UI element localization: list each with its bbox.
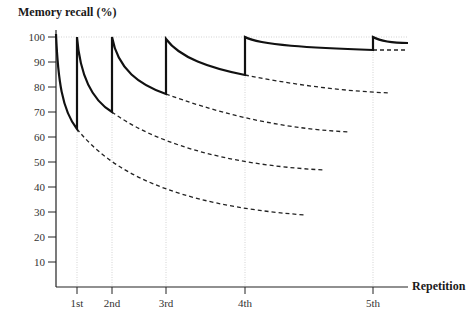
y-tick-labels: 100 90 80 70 60 50 40 30 20 10 <box>29 31 46 268</box>
x-axis-label: Repetition <box>412 279 466 293</box>
y-tick-50: 50 <box>34 156 46 168</box>
forgetting-curve-chart: Memory recall (%) 100 90 80 70 60 50 40 … <box>0 0 474 320</box>
x-tick-4th: 4th <box>238 297 253 309</box>
x-tick-labels: 1st 2nd 3rd 4th 5th <box>71 297 381 309</box>
x-tick-2nd: 2nd <box>104 297 121 309</box>
solid-recall-curve <box>56 34 408 129</box>
x-tick-3rd: 3rd <box>159 297 174 309</box>
y-tick-80: 80 <box>34 81 46 93</box>
dashed-curve-after-3rd <box>166 94 349 132</box>
chart-title: Memory recall (%) <box>18 5 116 19</box>
dashed-curve-after-4th <box>245 75 390 93</box>
y-tick-10: 10 <box>34 256 46 268</box>
y-tick-100: 100 <box>29 31 46 43</box>
y-tick-60: 60 <box>34 131 46 143</box>
gridlines <box>56 37 408 287</box>
x-ticks <box>77 287 373 294</box>
x-tick-5th: 5th <box>366 297 381 309</box>
y-tick-30: 30 <box>34 206 46 218</box>
dashed-curve-after-1st <box>77 129 305 215</box>
y-ticks <box>48 37 56 262</box>
x-tick-1st: 1st <box>71 297 84 309</box>
solid-curve-path <box>56 34 408 129</box>
y-tick-90: 90 <box>34 56 46 68</box>
dashed-curve-after-2nd <box>112 112 325 170</box>
y-tick-70: 70 <box>34 106 46 118</box>
y-tick-40: 40 <box>34 181 46 193</box>
y-tick-20: 20 <box>34 231 46 243</box>
